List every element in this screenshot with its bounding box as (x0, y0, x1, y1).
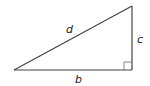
label-vertical-leg: c (137, 33, 143, 46)
label-hypotenuse: d (66, 23, 74, 36)
right-angle-marker (124, 62, 132, 70)
right-triangle-diagram: d c b (0, 0, 150, 86)
label-horizontal-leg: b (75, 73, 82, 86)
hypotenuse-line (14, 6, 132, 70)
